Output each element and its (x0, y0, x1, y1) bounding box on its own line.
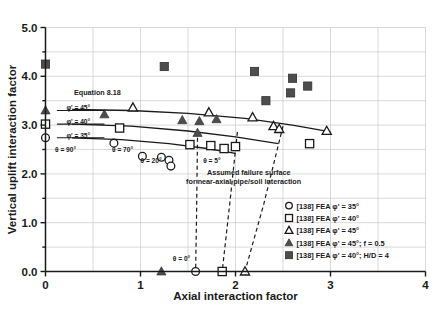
annotation-label: Assumed failure surface (207, 168, 291, 177)
y-tick-label: 5.0 (22, 22, 38, 34)
data-point-filled-square (160, 62, 168, 70)
data-point-open-circle (286, 202, 293, 209)
chart-background (0, 0, 443, 312)
annotation-label: θ = 90° (55, 146, 76, 153)
y-tick-label: 2.0 (22, 168, 38, 180)
x-tick-label: 0 (42, 279, 48, 291)
chart-figure: 012340.01.02.03.04.05.0 Equation 8.18φ' … (0, 0, 443, 312)
data-point-open-square (186, 141, 194, 149)
data-point-open-circle (167, 162, 175, 170)
data-point-open-square (116, 124, 124, 132)
legend-item[interactable]: [138] FEA φ' = 40°; H/D = 4 (286, 251, 390, 260)
legend-item[interactable]: [138] FEA φ' = 45°; f = 0.5 (285, 239, 385, 248)
data-point-open-square (286, 215, 293, 222)
legend-item-label: [138] FEA φ' = 45°; f = 0.5 (297, 239, 385, 248)
legend-item[interactable]: [138] FEA φ' = 40° (286, 214, 360, 223)
y-tick-label: 4.0 (22, 70, 38, 82)
annotation-label: φ' = 45° (66, 104, 90, 112)
data-point-open-square (207, 141, 215, 149)
annotation-label: θ = 20° (141, 157, 162, 164)
annotation-label: θ = 70° (112, 146, 133, 153)
x-tick-label: 2 (232, 279, 238, 291)
annotation-label: Equation 8.18 (74, 88, 121, 97)
legend-item[interactable]: [138] FEA φ' = 35° (286, 202, 359, 211)
legend-item[interactable]: [138] FEA φ' = 45° (285, 226, 359, 235)
y-axis-title: Vertical uplift interaction factor (6, 64, 18, 234)
x-tick-label: 1 (137, 279, 144, 291)
legend-item-label: [138] FEA φ' = 40° (297, 214, 360, 223)
data-point-filled-square (286, 252, 293, 259)
legend-item-label: [138] FEA φ' = 45° (297, 226, 360, 235)
x-tick-label: 3 (327, 279, 333, 291)
annotation-label: for near-axial pipe/soil interaction (186, 177, 301, 186)
x-tick-label: 4 (422, 279, 429, 291)
data-point-filled-square (304, 82, 312, 90)
data-point-filled-square (250, 67, 258, 75)
data-point-open-square (231, 142, 239, 150)
data-point-filled-square (287, 89, 295, 97)
annotation-label: θ = 5° (203, 157, 221, 164)
y-tick-label: 0.0 (22, 266, 38, 278)
annotation-label: φ' = 40° (66, 118, 90, 126)
uplift-vs-axial-interaction-scatter-chart: 012340.01.02.03.04.05.0 Equation 8.18φ' … (0, 0, 443, 312)
annotation-label: φ' = 35° (66, 132, 90, 140)
data-point-filled-square (288, 74, 296, 82)
data-point-open-square (306, 140, 314, 148)
annotation-label: θ = 0° (173, 255, 191, 262)
y-tick-label: 1.0 (22, 217, 38, 229)
data-point-open-square (220, 144, 228, 152)
legend-item-label: [138] FEA φ' = 35° (297, 202, 360, 211)
x-axis-title: Axial interaction factor (173, 290, 298, 302)
data-point-filled-square (262, 97, 270, 105)
legend-item-label: [138] FEA φ' = 40°; H/D = 4 (297, 251, 390, 260)
y-tick-label: 3.0 (22, 119, 38, 131)
